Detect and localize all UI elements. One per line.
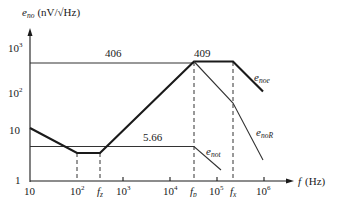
y-tick-10: 10	[9, 124, 21, 136]
label-e-noe: enoe	[254, 71, 270, 85]
y-axis-arrow-icon	[28, 28, 33, 36]
x-axis-title: f(Hz)	[298, 175, 326, 188]
y-tick-100: 102	[8, 86, 23, 99]
x-tick-10: 10	[24, 185, 36, 197]
label-566: 5.66	[143, 131, 163, 143]
x-tick-fx: fx	[230, 185, 237, 197]
curve-e-not	[30, 147, 221, 171]
x-tick-fp: fp	[190, 185, 197, 197]
y-tick-1000: 103	[8, 41, 23, 54]
noise-spectrum-diagram: eno(nV/√Hz) 103 102 10 1 10 102 fz 103 1…	[0, 0, 341, 197]
label-e-not: enot	[206, 145, 221, 159]
x-tick-100: 102	[70, 184, 85, 197]
curve-e-noR	[194, 62, 263, 161]
label-e-noR: enoR	[256, 126, 273, 140]
x-tick-fz: fz	[97, 185, 103, 197]
y-axis-title: eno(nV/√Hz)	[22, 6, 80, 20]
x-tick-1000: 103	[116, 184, 131, 197]
x-tick-100k: 105	[209, 184, 224, 197]
y-tick-1: 1	[15, 174, 21, 186]
x-axis-arrow-icon	[286, 179, 294, 184]
x-tick-1M: 106	[256, 184, 271, 197]
label-406: 406	[105, 47, 122, 59]
x-tick-10k: 104	[163, 184, 178, 197]
label-409: 409	[194, 47, 211, 59]
